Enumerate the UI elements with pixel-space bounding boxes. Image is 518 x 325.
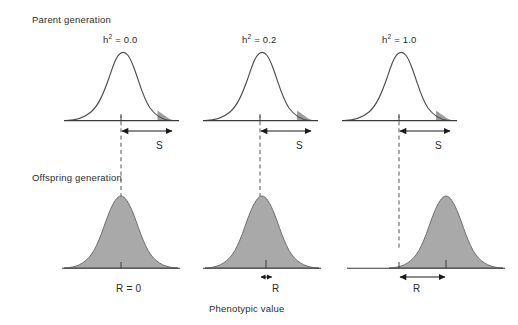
parent-curve-p2	[205, 52, 317, 120]
panel-h2-02-graphics	[203, 52, 321, 277]
figure-canvas	[0, 0, 518, 325]
parent-curve-tail-shade-p2	[297, 111, 317, 121]
parent-curve-p3	[344, 52, 456, 120]
parent-curve-tail-shade-p1	[158, 111, 178, 121]
offspring-curve-p2	[205, 196, 319, 268]
heritability-selection-figure: Parent generation Offspring generation h…	[0, 0, 518, 325]
offspring-curve-p3	[389, 196, 503, 268]
parent-curve-p1	[66, 52, 177, 120]
panel-h2-1-graphics	[342, 52, 505, 277]
parent-curve-tail-shade-p3	[436, 111, 456, 121]
offspring-curve-p1	[64, 196, 178, 268]
panel-h2-0-graphics	[62, 52, 180, 268]
